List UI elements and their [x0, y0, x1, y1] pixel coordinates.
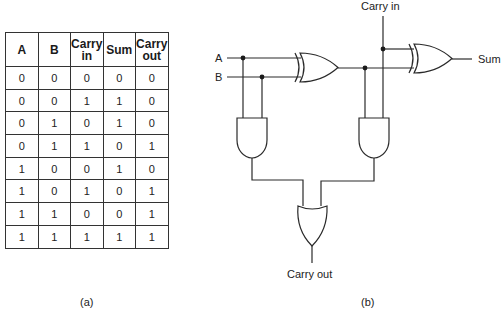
- junction-dot-xor1-out: [363, 66, 368, 71]
- or-gate: [298, 206, 327, 246]
- junction-dot-a: [241, 56, 246, 61]
- and-gate-1: [237, 118, 267, 158]
- xor-gate-1: [295, 53, 338, 82]
- full-adder-circuit: A B Carry in Sum Carry out: [0, 0, 502, 314]
- output-label-carry-out: Carry out: [287, 268, 332, 280]
- input-label-b: B: [215, 71, 222, 83]
- input-label-carry-in: Carry in: [361, 0, 400, 12]
- and-gate-2: [359, 118, 389, 158]
- xor-gate-2: [409, 44, 452, 73]
- junction-dot-b: [260, 75, 265, 80]
- junction-dot-carry-in: [381, 47, 386, 52]
- input-label-a: A: [215, 52, 223, 64]
- output-label-sum: Sum: [478, 53, 501, 65]
